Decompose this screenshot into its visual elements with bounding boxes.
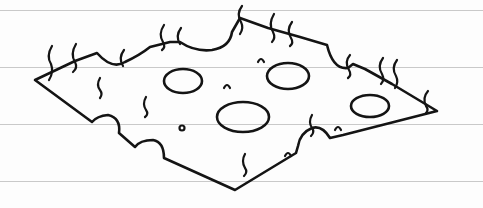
squiggle-mark: [73, 44, 76, 72]
pore-mark: [258, 59, 264, 62]
squiggle-mark: [98, 78, 102, 98]
squiggle-mark: [243, 154, 246, 176]
squiggle-mark: [161, 25, 165, 50]
pore-mark: [224, 85, 230, 88]
cheese-hole: [217, 102, 269, 132]
squiggle-mark: [424, 91, 428, 113]
squiggle-mark: [380, 58, 384, 84]
notebook-paper: Hand-drawn line sketch of a flat slab of…: [0, 0, 483, 208]
pore-mark: [335, 127, 341, 130]
squiggle-mark: [310, 115, 313, 136]
squiggle-mark: [394, 60, 398, 88]
cheese-sketch: [0, 0, 483, 208]
cheese-hole: [164, 69, 202, 93]
cheese-hole: [267, 63, 309, 89]
pore-dot: [180, 126, 185, 131]
cheese-hole: [351, 95, 389, 117]
squiggle-mark: [49, 46, 52, 80]
squiggle-mark: [144, 97, 147, 117]
cheese-outline: [35, 18, 437, 190]
pore-mark: [285, 153, 291, 156]
